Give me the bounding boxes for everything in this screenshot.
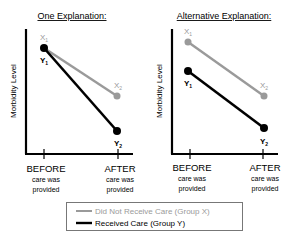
group-y-line [188, 71, 264, 128]
x1-point [185, 39, 192, 46]
y2-point [260, 124, 268, 132]
y2-label: Y2 [114, 139, 122, 149]
panel-alternative-explanation: Alternative Explanation: Morbidity Level… [155, 11, 281, 193]
tick-label-before: BEFORE [26, 163, 65, 174]
tick-sublabel: care was [106, 176, 135, 183]
tick-sublabel: provided [107, 186, 134, 194]
figure: One Explanation: Morbidity Level X1 Y1 X… [0, 0, 295, 238]
y1-point [184, 67, 192, 75]
tick-sublabel: care was [251, 175, 280, 182]
tick-label-after: AFTER [104, 163, 135, 174]
y1-label: Y1 [40, 56, 48, 66]
tick-sublabel: provided [179, 185, 206, 193]
tick-label-after: AFTER [249, 162, 280, 173]
x2-label: X2 [260, 81, 268, 91]
tick-sublabel: care was [178, 175, 207, 182]
y2-label: Y2 [260, 137, 268, 147]
tick-sublabel: provided [33, 186, 60, 194]
group-x-line [188, 42, 264, 96]
x1-label: X1 [184, 27, 192, 37]
panel-one-explanation: One Explanation: Morbidity Level X1 Y1 X… [9, 11, 136, 194]
x2-point [114, 93, 121, 100]
tick-label-before: BEFORE [172, 162, 211, 173]
y-axis-label: Morbidity Level [9, 64, 18, 118]
legend: Did Not Receive Care (Group X) Received … [67, 203, 243, 231]
tick-sublabel: provided [252, 185, 279, 193]
legend-label-group-y: Received Care (Group Y) [95, 219, 185, 228]
y-axis-label: Morbidity Level [155, 64, 164, 118]
y1-label: Y1 [184, 79, 192, 89]
x1-y1-point [40, 44, 48, 52]
panel-title: One Explanation: [37, 11, 106, 21]
y2-point [113, 127, 121, 135]
tick-sublabel: care was [32, 176, 61, 183]
panel-title: Alternative Explanation: [177, 11, 272, 21]
x2-point [261, 93, 268, 100]
x1-label: X1 [40, 33, 48, 43]
x2-label: X2 [114, 81, 122, 91]
legend-label-group-x: Did Not Receive Care (Group X) [95, 207, 210, 216]
